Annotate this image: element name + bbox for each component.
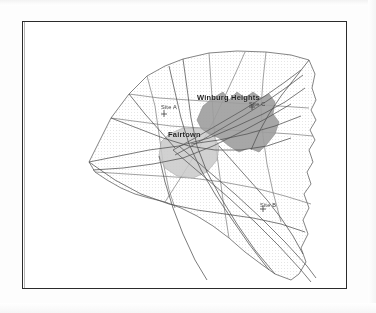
- map-frame: Winburg Heights Fairtown Site A Site C S…: [22, 21, 347, 289]
- map-label-site-a: Site A: [161, 104, 177, 110]
- map-graphic: [23, 22, 346, 288]
- map-label-site-c: Site C: [249, 101, 265, 107]
- map-label-fairtown: Fairtown: [168, 130, 201, 139]
- scan-artifact-right: [368, 0, 376, 313]
- map-viewport: Winburg Heights Fairtown Site A Site C S…: [23, 22, 346, 288]
- map-label-site-b: Site B: [260, 202, 276, 208]
- scan-artifact-top: [0, 0, 376, 6]
- scan-artifact-bottom: [0, 303, 376, 313]
- page-canvas: Winburg Heights Fairtown Site A Site C S…: [0, 0, 376, 313]
